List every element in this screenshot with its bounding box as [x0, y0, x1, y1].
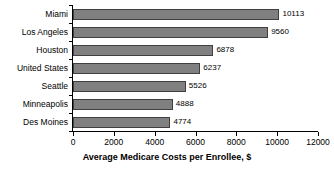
bar-value-label: 4888 [176, 100, 194, 108]
bar [73, 117, 170, 128]
bar-value-label: 9560 [271, 28, 289, 36]
category-label: Minneapolis [23, 100, 68, 109]
bar-row: 4888 [73, 99, 318, 110]
category-label: Seattle [42, 82, 68, 91]
x-axis-tick-label: 12000 [306, 138, 330, 147]
bar-row: 4774 [73, 117, 318, 128]
bar [73, 81, 186, 92]
bar-value-label: 5526 [189, 82, 207, 90]
category-label: Los Angeles [22, 28, 68, 37]
x-axis-tick [318, 132, 319, 136]
x-axis-tick-label: 10000 [265, 138, 289, 147]
x-axis-tick-label: 2000 [104, 138, 123, 147]
x-axis-tick [114, 132, 115, 136]
x-axis-tick [236, 132, 237, 136]
x-axis-tick [277, 132, 278, 136]
y-axis-tick [69, 41, 73, 42]
y-axis-tick [69, 5, 73, 6]
x-axis-tick [196, 132, 197, 136]
bar-value-label: 4774 [173, 118, 191, 126]
bar [73, 27, 268, 38]
plot-area: 1011395606878623755264888477402000400060… [73, 5, 318, 131]
bar-value-label: 10113 [282, 10, 304, 18]
y-axis-tick [69, 113, 73, 114]
y-axis-tick [69, 95, 73, 96]
y-axis-tick [69, 23, 73, 24]
bar [73, 99, 173, 110]
x-axis-tick-label: 0 [71, 138, 76, 147]
x-axis-tick-label: 8000 [227, 138, 246, 147]
y-axis-tick [69, 59, 73, 60]
bar-value-label: 6237 [203, 64, 221, 72]
bar [73, 45, 213, 56]
category-axis-labels: MiamiLos AngelesHoustonUnited StatesSeat… [0, 5, 68, 131]
y-axis-tick [69, 77, 73, 78]
bar-row: 10113 [73, 9, 318, 20]
bar-row: 6878 [73, 45, 318, 56]
bar-row: 6237 [73, 63, 318, 74]
bar [73, 63, 200, 74]
x-axis-tick [73, 132, 74, 136]
x-axis-tick-label: 6000 [186, 138, 205, 147]
bar-row: 5526 [73, 81, 318, 92]
category-label: Miami [45, 10, 68, 19]
category-label: United States [17, 64, 68, 73]
x-axis-tick-label: 4000 [145, 138, 164, 147]
category-label: Des Moines [23, 118, 68, 127]
category-label: Houston [36, 46, 68, 55]
bar-row: 9560 [73, 27, 318, 38]
bar-chart: MiamiLos AngelesHoustonUnited StatesSeat… [0, 0, 334, 174]
bar [73, 9, 279, 20]
x-axis-tick [155, 132, 156, 136]
x-axis-title: Average Medicare Costs per Enrollee, $ [0, 153, 334, 162]
bar-value-label: 6878 [216, 46, 234, 54]
